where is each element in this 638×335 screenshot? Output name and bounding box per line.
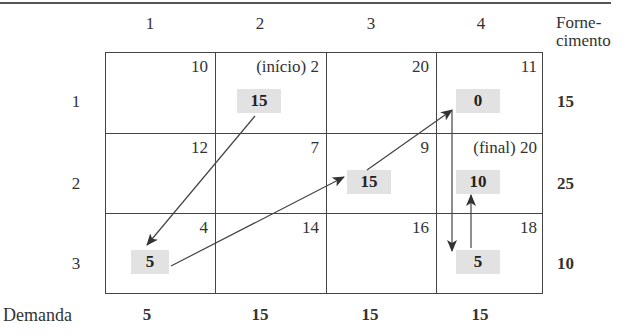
- loop-arrows: [0, 0, 638, 335]
- arrow-12-to-31: [147, 116, 255, 245]
- arrow-23-to-14: [367, 110, 452, 170]
- arrow-31-to-23: [171, 177, 344, 266]
